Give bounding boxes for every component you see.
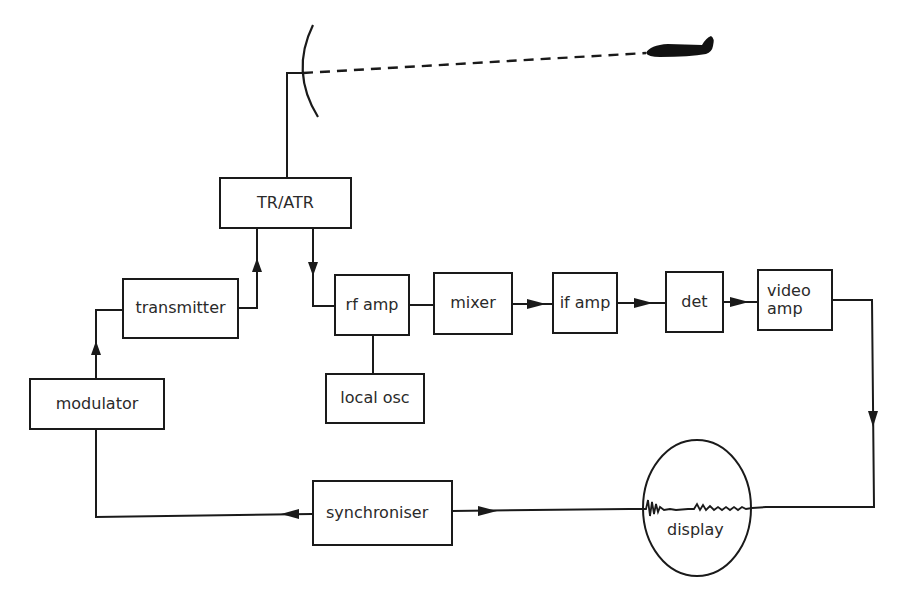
synchroniser-label: synchroniser: [326, 504, 428, 522]
arrow-right-icon: [527, 299, 546, 309]
video-amp-label-line2: amp: [767, 300, 803, 318]
aircraft-target-icon: [646, 36, 714, 57]
display-label: display: [667, 520, 724, 539]
tr-atr-label: TR/ATR: [257, 194, 314, 212]
rf-amp-block: rf amp: [334, 274, 410, 336]
modulator-block: modulator: [29, 378, 165, 430]
transmitter-block: transmitter: [122, 278, 239, 339]
synchroniser-block: synchroniser: [312, 480, 453, 546]
synchroniser-to-modulator-line: [96, 429, 312, 517]
if-amp-block: if amp: [552, 272, 618, 334]
tr-atr-block: TR/ATR: [219, 177, 352, 229]
antenna-icon: [303, 25, 318, 117]
arrow-right-icon: [478, 506, 497, 516]
arrow-right-icon: [634, 298, 653, 308]
radar-beam-dashed-line: [303, 53, 646, 73]
if-amp-label: if amp: [560, 294, 611, 312]
local-osc-label: local osc: [340, 389, 409, 407]
rf-amp-label: rf amp: [346, 296, 399, 314]
antenna-feed-line: [287, 73, 302, 177]
arrow-down-icon: [308, 262, 318, 276]
det-block: det: [665, 271, 724, 333]
display-baseline: [752, 507, 766, 508]
mixer-block: mixer: [433, 272, 513, 335]
modulator-to-transmitter-line: [96, 310, 122, 378]
transmitter-label: transmitter: [135, 299, 225, 317]
local-osc-block: local osc: [325, 373, 425, 424]
video-amp-block: video amp: [757, 269, 833, 331]
arrow-right-icon: [730, 297, 749, 307]
radar-echo-trace: [643, 500, 752, 516]
arrow-up-icon: [252, 258, 262, 272]
arrow-left-icon: [281, 509, 299, 519]
mixer-label: mixer: [450, 294, 495, 312]
arrow-up-icon: [91, 341, 101, 355]
det-label: det: [681, 293, 707, 311]
tratr-to-rfamp-line: [313, 229, 334, 306]
arrow-down-icon: [868, 411, 878, 427]
video-amp-label-line1: video: [767, 282, 811, 300]
modulator-label: modulator: [56, 395, 139, 413]
videoamp-to-display-line: [765, 300, 874, 507]
